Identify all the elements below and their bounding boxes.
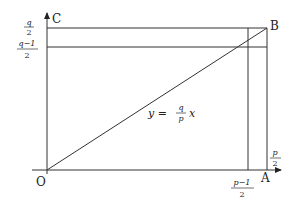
label-origin: O (36, 175, 46, 189)
diagonal-line (47, 28, 267, 170)
lattice-diagram: O A B C q 2 q−1 2 p 2 p−1 2 y = q p x (0, 0, 299, 206)
x-label-p-minus-1-half: p−1 2 (231, 178, 254, 199)
svg-text:2: 2 (26, 28, 31, 37)
svg-text:2: 2 (239, 190, 244, 199)
svg-text:q: q (178, 103, 183, 112)
label-c: C (52, 12, 61, 26)
svg-text:x: x (189, 107, 196, 120)
svg-text:p: p (178, 114, 183, 123)
y-label-q-half: q 2 (24, 18, 34, 37)
svg-text:p: p (272, 148, 277, 157)
label-b: B (270, 19, 279, 33)
y-label-q-minus-1-half: q−1 2 (17, 39, 38, 60)
line-equation: y = q p x (147, 103, 196, 123)
svg-text:y =: y = (147, 107, 167, 120)
x-label-p-half: p 2 (270, 148, 281, 168)
label-a: A (260, 171, 270, 185)
svg-text:2: 2 (24, 51, 29, 60)
svg-text:2: 2 (272, 159, 277, 168)
svg-text:p−1: p−1 (234, 178, 251, 187)
svg-text:q−1: q−1 (19, 39, 36, 48)
svg-text:q: q (26, 18, 31, 27)
